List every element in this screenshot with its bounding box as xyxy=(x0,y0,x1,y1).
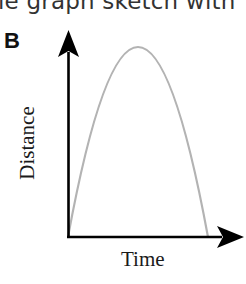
x-axis-label: Time xyxy=(121,247,165,272)
y-axis-label: Distance xyxy=(15,106,40,179)
distance-curve xyxy=(68,47,208,237)
